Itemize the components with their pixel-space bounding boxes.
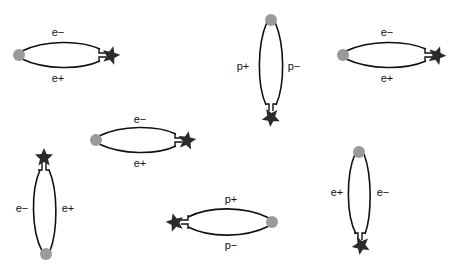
loop-3-star-icon [426,43,449,66]
loop-2-label-left: p+ [237,60,250,72]
loop-2-dot-icon [265,14,277,26]
loop-4-label-top: e− [134,113,147,125]
loop-4-label-bottom: e+ [134,157,147,169]
loop-6-bar-marker-icon [181,215,188,229]
loop-2-label-right: p− [288,60,301,72]
loop-5-dot-icon [40,248,52,260]
loop-5: e− e+ [16,148,75,260]
loop-6: p+ p− [164,193,278,251]
loop-1: e− e+ [13,26,122,84]
loop-1-label-bottom: e+ [52,72,65,84]
loop-7-label-right: e− [377,186,390,198]
loop-6-star-icon [164,211,186,233]
loop-5-label-right: e+ [62,202,75,214]
loop-4-dot-icon [90,134,102,146]
loop-3-dot-icon [337,49,349,61]
loop-2: p+ p− [237,14,301,128]
loop-1-star-icon [100,44,122,66]
loop-7-outline [348,154,370,234]
particle-loops-diagram: e− e+ p+ p− e− e+ e− e+ e− e+ [0,0,454,271]
loop-1-outline [22,42,100,67]
loop-7: e+ e− [331,146,390,256]
loop-7-star-icon [351,236,372,256]
loop-5-label-left: e− [16,202,29,214]
loop-3-label-bottom: e+ [381,72,394,84]
loop-2-star-icon [261,109,280,128]
loop-4-star-icon [177,130,198,150]
loop-3: e− e+ [337,26,449,84]
loop-1-dot-icon [13,49,25,61]
loop-4-outline [99,127,176,152]
loop-6-outline [188,209,269,235]
loop-5-outline [33,170,55,251]
loop-2-outline [259,22,282,105]
loop-4: e− e+ [90,113,197,169]
loop-6-label-bottom: p− [225,239,238,251]
loop-6-dot-icon [266,216,278,228]
loop-3-label-top: e− [381,26,394,38]
loop-6-label-top: p+ [225,193,238,205]
loop-7-dot-icon [353,146,365,158]
loop-3-outline [346,42,426,67]
loop-1-label-top: e− [52,26,65,38]
loop-7-label-left: e+ [331,186,344,198]
loop-4-bar-marker-icon [175,133,182,147]
loop-5-star-icon [35,148,53,166]
